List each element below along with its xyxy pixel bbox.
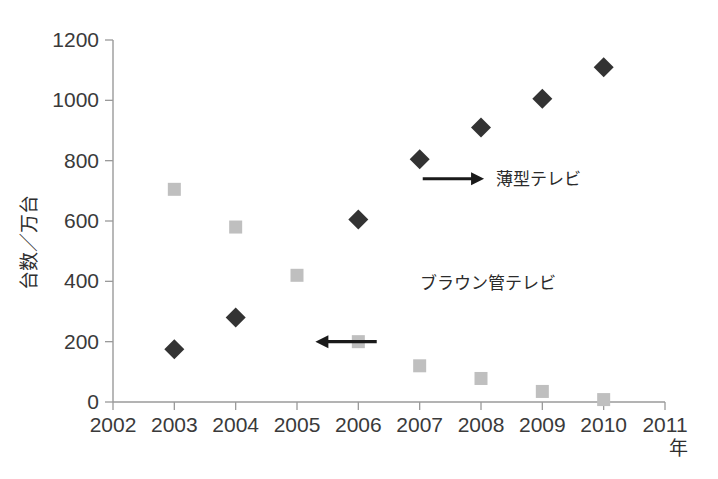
y-tick-label: 400 <box>64 269 99 292</box>
x-tick-label: 2010 <box>580 413 627 436</box>
data-point-crt <box>291 269 304 282</box>
y-tick-label: 1000 <box>52 88 99 111</box>
data-point-crt <box>475 372 488 385</box>
x-tick-label: 2003 <box>151 413 198 436</box>
x-axis-title: 年 <box>669 438 688 459</box>
x-tick-label: 2007 <box>396 413 443 436</box>
annotation-label: ブラウン管テレビ <box>420 273 556 293</box>
x-tick-label: 2009 <box>519 413 566 436</box>
data-point-crt <box>536 385 549 398</box>
y-tick-label: 200 <box>64 330 99 353</box>
y-tick-label: 1200 <box>52 28 99 51</box>
x-tick-label: 2002 <box>90 413 137 436</box>
y-tick-label: 600 <box>64 209 99 232</box>
x-tick-label: 2008 <box>458 413 505 436</box>
y-tick-label: 800 <box>64 149 99 172</box>
data-point-crt <box>168 183 181 196</box>
chart-container: 台数／万台 年 020040060080010001200 2002200320… <box>0 0 718 479</box>
chart-background <box>0 0 718 479</box>
annotation-label: 薄型テレビ <box>496 170 581 189</box>
x-tick-label: 2004 <box>212 413 259 436</box>
y-axis-title: 台数／万台 <box>19 195 40 290</box>
x-tick-label: 2011 <box>642 413 687 436</box>
y-tick-label: 0 <box>87 390 99 413</box>
data-point-crt <box>229 221 242 234</box>
data-point-crt <box>597 393 610 406</box>
x-tick-label: 2005 <box>274 413 321 436</box>
scatter-chart: 台数／万台 年 020040060080010001200 2002200320… <box>0 0 718 479</box>
x-tick-label: 2006 <box>335 413 382 436</box>
data-point-crt <box>413 359 426 372</box>
